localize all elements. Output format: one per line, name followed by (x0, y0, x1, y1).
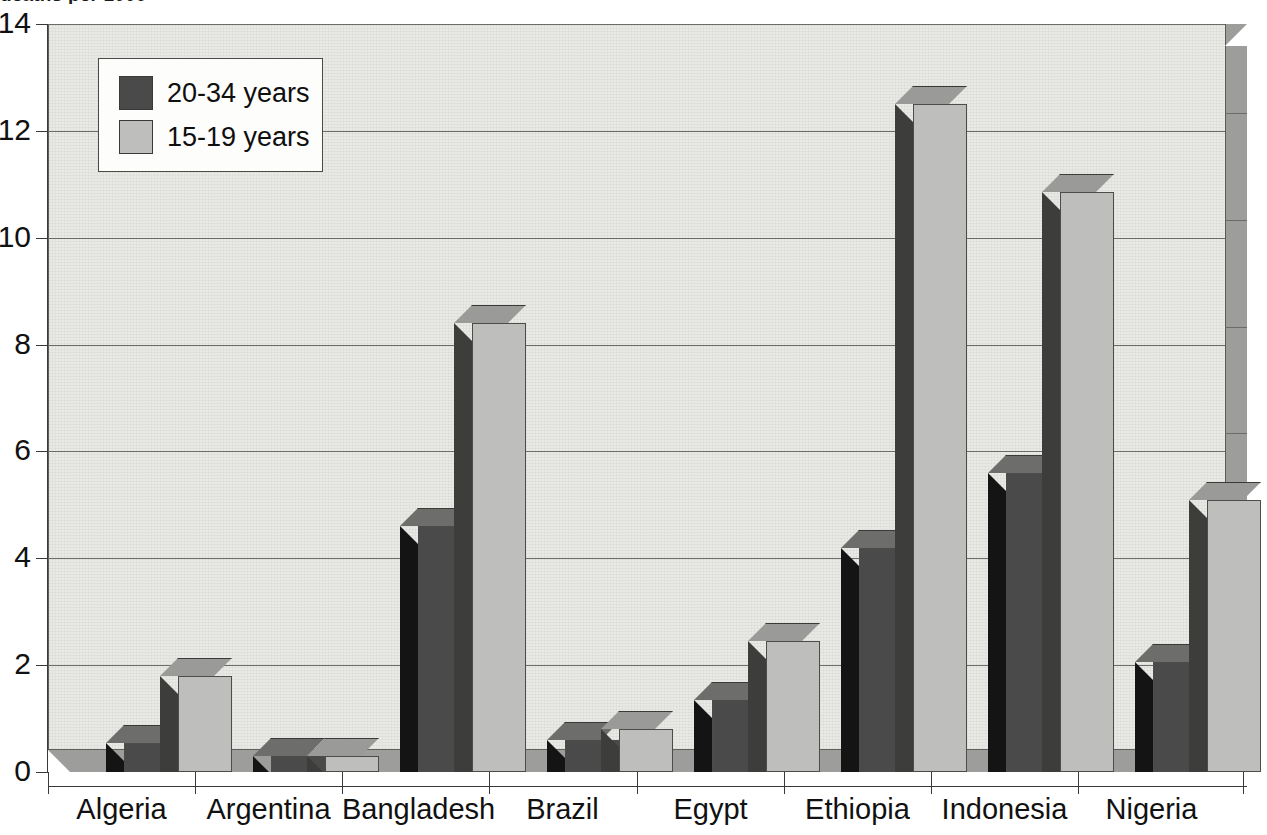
bar-front-face (766, 641, 820, 772)
bar-algeria-15-19-years (178, 676, 232, 772)
x-axis-tick-mark (1243, 772, 1244, 794)
bar-front-face (178, 676, 232, 772)
legend-label: 20-34 years (167, 80, 310, 107)
bar-side-face (1135, 662, 1153, 772)
bar-indonesia-15-19-years (1060, 192, 1114, 772)
gridline-wall-segment (1225, 113, 1247, 114)
x-axis-category-label-bangladesh: Bangladesh (342, 794, 489, 826)
x-axis-tick-mark (931, 772, 932, 794)
bar-side-face (1189, 500, 1207, 772)
x-axis-tick-mark (637, 772, 638, 794)
bar-side-face (841, 548, 859, 772)
bar-brazil-15-19-years (619, 729, 673, 772)
y-axis-tick-mark (36, 24, 48, 25)
x-axis-category-label-indonesia: Indonesia (931, 794, 1078, 826)
y-axis-tick-mark (36, 558, 48, 559)
y-axis-tick-label: 2 (14, 649, 31, 679)
gridline-wall-segment (1225, 327, 1247, 328)
y-axis-line (47, 24, 48, 772)
legend-swatch (119, 76, 153, 110)
bar-front-face (619, 729, 673, 772)
x-axis-category-label-egypt: Egypt (637, 794, 784, 826)
bar-bangladesh-15-19-years (472, 323, 526, 772)
chart-title-clipped: deaths per 1000 (0, 0, 560, 4)
bar-side-face (988, 473, 1006, 772)
bar-side-face (454, 323, 472, 772)
y-axis-tick-label: 10 (0, 222, 31, 252)
y-axis-tick-label: 8 (14, 329, 31, 359)
y-axis-tick-mark (36, 772, 48, 773)
legend-swatch (119, 120, 153, 154)
bar-side-face (895, 104, 913, 772)
y-axis-tick-mark (36, 665, 48, 666)
y-axis-tick-mark (36, 451, 48, 452)
x-axis-category-label-argentina: Argentina (195, 794, 342, 826)
bar-side-face (1042, 192, 1060, 772)
gridline-wall-segment (1225, 220, 1247, 221)
x-axis-line (48, 786, 1247, 787)
bar-argentina-15-19-years (325, 756, 379, 772)
bar-side-face (748, 641, 766, 772)
x-axis-category-label-algeria: Algeria (48, 794, 195, 826)
bar-front-face (472, 323, 526, 772)
bar-front-face (913, 104, 967, 772)
bar-front-face (1207, 500, 1261, 772)
gridline (48, 24, 1225, 25)
y-axis-tick-label: 14 (0, 8, 31, 38)
bar-ethiopia-15-19-years (913, 104, 967, 772)
x-axis-category-label-nigeria: Nigeria (1078, 794, 1225, 826)
chart-figure: deaths per 1000 02468101214 AlgeriaArgen… (0, 0, 1267, 835)
chart-legend: 20-34 years15-19 years (98, 58, 323, 172)
legend-entry-15-19-years: 15-19 years (119, 117, 310, 157)
legend-entry-20-34-years: 20-34 years (119, 73, 310, 113)
y-axis-tick-label: 0 (14, 756, 31, 786)
x-axis-category-label-brazil: Brazil (489, 794, 636, 826)
bar-egypt-15-19-years (766, 641, 820, 772)
bar-front-face (1060, 192, 1114, 772)
bar-side-face (400, 526, 418, 772)
x-axis-tick-mark (489, 772, 490, 794)
y-axis-tick-mark (36, 238, 48, 239)
bar-front-face (325, 756, 379, 772)
y-axis-tick-label: 4 (14, 542, 31, 572)
x-axis-category-label-ethiopia: Ethiopia (784, 794, 931, 826)
x-axis-tick-mark (195, 772, 196, 794)
x-axis-tick-mark (784, 772, 785, 794)
y-axis-tick-label: 12 (0, 115, 31, 145)
bar-nigeria-15-19-years (1207, 500, 1261, 772)
x-axis-tick-mark (48, 772, 49, 794)
legend-label: 15-19 years (167, 124, 310, 151)
y-axis-tick-mark (36, 345, 48, 346)
y-axis-tick-label: 6 (14, 435, 31, 465)
x-axis-tick-mark (1078, 772, 1079, 794)
y-axis-tick-mark (36, 131, 48, 132)
gridline-wall-segment (1225, 433, 1247, 434)
x-axis-tick-mark (342, 772, 343, 794)
